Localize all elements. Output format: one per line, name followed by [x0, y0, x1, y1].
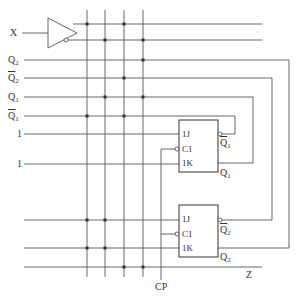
- q2-subscript: 2: [15, 59, 19, 67]
- ff2-qbar-subscript: 2: [227, 229, 231, 237]
- ff1-qbar-output-label: Q1: [220, 138, 231, 150]
- ff1-q-subscript: 1: [227, 172, 231, 180]
- ff2-qbar-output-label: Q2: [220, 225, 231, 237]
- input-q2bar-label: Q2: [8, 73, 19, 85]
- input-q1-label: Q1: [8, 92, 19, 104]
- input-const-one-a: 1: [17, 129, 22, 139]
- ff2-pin-k: 1K: [182, 244, 193, 253]
- input-const-one-b: 1: [17, 159, 22, 169]
- ff2-q-output-label: Q2: [220, 252, 231, 264]
- circuit-diagram: X Q2 Q2 Q1 Q1 1 1 1J C1 1K Q1 Q1 1J C1 1…: [0, 0, 300, 302]
- input-x-label: X: [10, 28, 17, 38]
- clock-cp-label: CP: [155, 282, 167, 292]
- ff1-pin-j: 1J: [182, 130, 190, 139]
- ff2-pin-clock: C1: [182, 230, 193, 239]
- ff1-q-output-label: Q1: [220, 168, 231, 180]
- ff1-pin-k: 1K: [182, 159, 193, 168]
- ff1-pin-clock: C1: [182, 145, 193, 154]
- input-q2-label: Q2: [8, 55, 19, 67]
- q2bar-subscript: 2: [15, 77, 19, 85]
- q1bar-subscript: 1: [15, 115, 19, 123]
- output-z-label: Z: [246, 270, 252, 280]
- ff1-qbar-subscript: 1: [227, 142, 231, 150]
- circuit-wiring: [0, 0, 300, 302]
- q1-subscript: 1: [15, 96, 19, 104]
- input-q1bar-label: Q1: [8, 111, 19, 123]
- ff2-q-subscript: 2: [227, 256, 231, 264]
- ff2-pin-j: 1J: [182, 215, 190, 224]
